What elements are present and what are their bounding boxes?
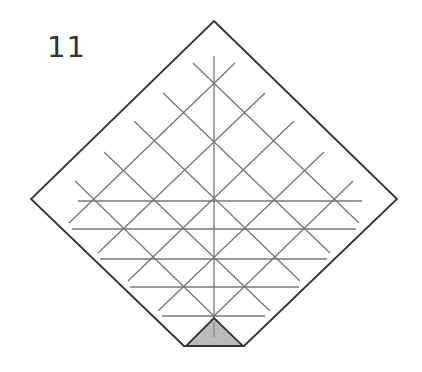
origami-diagram xyxy=(0,0,422,372)
crease-lines xyxy=(69,56,362,337)
diagonal-crease xyxy=(69,63,235,223)
